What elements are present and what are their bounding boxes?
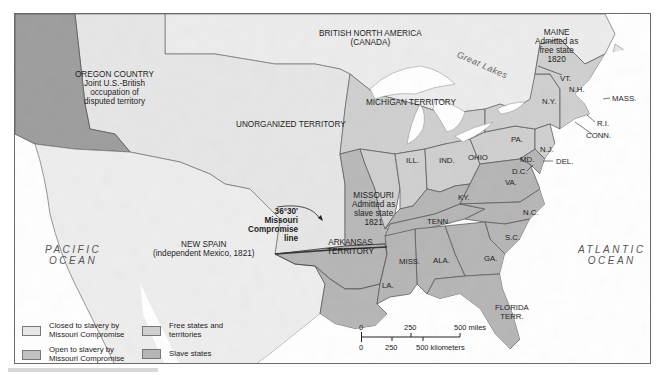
label-atlantic-ocean: ATLANTIC OCEAN (578, 244, 646, 266)
label-miss: MISS. (399, 257, 420, 266)
label-british-north-america: BRITISH NORTH AMERICA (CANADA) (319, 29, 422, 47)
label-ill: ILL. (406, 156, 419, 165)
label-dc: D.C. (512, 167, 528, 176)
label-md: MD. (520, 155, 534, 164)
label-maine: MAINE Admitted as free state 1820 (535, 28, 578, 64)
legend-label-open: Open to slavery by Missouri Compromise (49, 346, 124, 363)
scale-miles-0: 0 (359, 323, 363, 332)
label-pacific-ocean: PACIFIC OCEAN (45, 244, 101, 266)
label-arkansas-territory: ARKANSAS TERRITORY (327, 238, 374, 256)
legend-label-slave: Slave states (169, 350, 211, 359)
label-sc: S.C. (505, 233, 520, 242)
legend-swatch-free (142, 326, 161, 336)
label-ohio: OHIO (468, 153, 488, 162)
label-del: DEL. (556, 157, 573, 166)
map-canvas (15, 14, 651, 364)
scale-km-500: 500 kilometers (416, 343, 465, 352)
label-mass: MASS. (612, 94, 636, 103)
label-oregon-country: OREGON COUNTRY Joint U.S.-British occupa… (75, 70, 154, 106)
legend-swatch-open (22, 350, 41, 360)
scale-line (361, 332, 461, 342)
label-ala: ALA. (433, 256, 450, 265)
label-va: VA. (505, 178, 517, 187)
scale-km-250: 250 (385, 343, 398, 352)
legend-label-closed: Closed to slavery by Missouri Compromise (49, 322, 124, 339)
label-nj: N.J. (540, 145, 554, 154)
label-new-spain: NEW SPAIN (independent Mexico, 1821) (153, 240, 255, 258)
map-legend: Closed to slavery by Missouri Compromise… (15, 314, 263, 364)
legend-swatch-slave (142, 349, 161, 359)
scale-miles-250: 250 (404, 323, 417, 332)
label-nh: N.H. (569, 85, 585, 94)
label-nc: N.C. (523, 208, 539, 217)
label-ind: IND. (439, 156, 455, 165)
label-tenn: TENN. (427, 217, 450, 226)
label-ny: N.Y. (542, 97, 556, 106)
legend-item-slave: Slave states (142, 349, 211, 359)
label-vt: VT. (560, 74, 571, 83)
label-la: LA. (382, 281, 394, 290)
scale-bar: 0 250 500 miles 0 250 500 kilometers (361, 323, 491, 355)
label-pa: PA. (511, 135, 523, 144)
legend-swatch-closed (22, 326, 41, 336)
label-conn: CONN. (586, 131, 611, 140)
scale-km-0: 0 (359, 343, 363, 352)
label-ri: R.I. (597, 119, 609, 128)
scale-miles-500: 500 miles (454, 323, 486, 332)
legend-label-free: Free states and territories (169, 322, 223, 339)
legend-item-free: Free states and territories (142, 322, 223, 339)
label-florida-territory: FLORIDA TERR. (495, 303, 529, 321)
label-compromise-line: 36°30' Missouri Compromise line (248, 207, 298, 243)
label-missouri: MISSOURI Admitted as slave state 1821 (352, 191, 395, 227)
label-ky: KY. (458, 193, 470, 202)
map-caption-cropped (8, 367, 208, 373)
legend-item-open: Open to slavery by Missouri Compromise (22, 346, 124, 363)
legend-item-closed: Closed to slavery by Missouri Compromise (22, 322, 124, 339)
label-unorganized-territory: UNORGANIZED TERRITORY (236, 120, 346, 129)
label-michigan-territory: MICHIGAN TERRITORY (366, 98, 456, 107)
label-ga: GA. (484, 254, 497, 263)
map-frame: BRITISH NORTH AMERICA (CANADA) Great Lak… (14, 13, 651, 364)
